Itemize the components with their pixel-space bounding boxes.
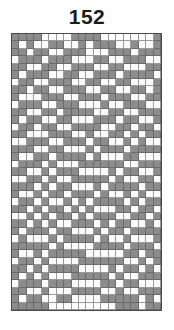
grid-cell bbox=[79, 168, 86, 175]
grid-cell bbox=[12, 79, 19, 86]
grid-cell bbox=[42, 280, 49, 287]
grid-cell bbox=[34, 213, 41, 220]
grid-cell bbox=[49, 101, 56, 108]
grid-cell bbox=[116, 161, 123, 168]
grid-cell bbox=[57, 101, 64, 108]
grid-cell bbox=[154, 295, 161, 302]
grid-cell bbox=[116, 213, 123, 220]
grid-cell bbox=[124, 49, 131, 56]
grid-cell bbox=[34, 138, 41, 145]
grid-cell bbox=[139, 206, 146, 213]
grid-cell bbox=[94, 153, 101, 160]
grid-cell bbox=[139, 34, 146, 41]
grid-cell bbox=[94, 303, 101, 310]
grid-cell bbox=[154, 86, 161, 93]
grid-cell bbox=[116, 64, 123, 71]
grid-cell bbox=[131, 153, 138, 160]
grid-cell bbox=[139, 250, 146, 257]
grid-cell bbox=[124, 265, 131, 272]
grid-cell bbox=[146, 176, 153, 183]
grid-cell bbox=[19, 228, 26, 235]
grid-cell bbox=[109, 258, 116, 265]
grid-cell bbox=[27, 101, 34, 108]
grid-cell bbox=[57, 250, 64, 257]
grid-cell bbox=[49, 265, 56, 272]
grid-cell bbox=[19, 146, 26, 153]
grid-cell bbox=[57, 235, 64, 242]
grid-cell bbox=[19, 34, 26, 41]
grid-cell bbox=[139, 198, 146, 205]
grid-cell bbox=[139, 71, 146, 78]
grid-cell bbox=[27, 138, 34, 145]
grid-cell bbox=[154, 79, 161, 86]
grid-cell bbox=[49, 191, 56, 198]
grid-cell bbox=[79, 64, 86, 71]
grid-cell bbox=[101, 295, 108, 302]
grid-cell bbox=[94, 183, 101, 190]
grid-cell bbox=[27, 220, 34, 227]
grid-cell bbox=[86, 191, 93, 198]
grid-cell bbox=[86, 206, 93, 213]
grid-cell bbox=[86, 131, 93, 138]
grid-cell bbox=[42, 288, 49, 295]
grid-cell bbox=[146, 146, 153, 153]
grid-cell bbox=[79, 71, 86, 78]
grid-cell bbox=[64, 213, 71, 220]
grid-cell bbox=[57, 288, 64, 295]
grid-cell bbox=[146, 109, 153, 116]
grid-cell bbox=[34, 71, 41, 78]
grid-cell bbox=[79, 131, 86, 138]
grid-cell bbox=[57, 161, 64, 168]
grid-cell bbox=[57, 153, 64, 160]
grid-cell bbox=[86, 303, 93, 310]
grid-cell bbox=[19, 258, 26, 265]
grid-cell bbox=[109, 49, 116, 56]
grid-cell bbox=[101, 265, 108, 272]
grid-cell bbox=[57, 303, 64, 310]
grid-cell bbox=[109, 288, 116, 295]
grid-cell bbox=[139, 131, 146, 138]
grid-cell bbox=[49, 288, 56, 295]
grid-cell bbox=[139, 79, 146, 86]
grid-cell bbox=[79, 124, 86, 131]
grid-cell bbox=[109, 243, 116, 250]
grid-cell bbox=[42, 228, 49, 235]
grid-cell bbox=[49, 220, 56, 227]
grid-cell bbox=[34, 101, 41, 108]
grid-cell bbox=[79, 161, 86, 168]
grid-cell bbox=[64, 146, 71, 153]
grid-cell bbox=[19, 198, 26, 205]
grid-cell bbox=[42, 138, 49, 145]
grid-cell bbox=[19, 153, 26, 160]
grid-cell bbox=[101, 176, 108, 183]
grid-cell bbox=[42, 303, 49, 310]
grid-cell bbox=[57, 79, 64, 86]
grid-cell bbox=[72, 116, 79, 123]
grid-cell bbox=[101, 101, 108, 108]
grid-cell bbox=[49, 56, 56, 63]
grid-cell bbox=[94, 243, 101, 250]
grid-cell bbox=[94, 86, 101, 93]
grid-cell bbox=[139, 191, 146, 198]
grid-cell bbox=[146, 220, 153, 227]
grid-cell bbox=[79, 41, 86, 48]
grid-cell bbox=[131, 288, 138, 295]
grid-cell bbox=[116, 101, 123, 108]
grid-cell bbox=[101, 191, 108, 198]
grid-cell bbox=[109, 131, 116, 138]
grid-cell bbox=[109, 168, 116, 175]
grid-cell bbox=[27, 258, 34, 265]
grid-cell bbox=[27, 71, 34, 78]
grid-cell bbox=[139, 176, 146, 183]
grid-cell bbox=[57, 273, 64, 280]
grid-cell bbox=[12, 258, 19, 265]
grid-cell bbox=[86, 235, 93, 242]
grid-cell bbox=[131, 183, 138, 190]
grid-cell bbox=[109, 94, 116, 101]
grid-cell bbox=[64, 303, 71, 310]
grid-cell bbox=[27, 206, 34, 213]
grid-cell bbox=[42, 49, 49, 56]
grid-cell bbox=[42, 41, 49, 48]
grid-cell bbox=[131, 258, 138, 265]
grid-cell bbox=[27, 250, 34, 257]
